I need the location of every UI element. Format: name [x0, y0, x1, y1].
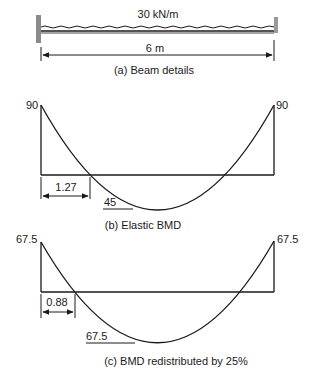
left-fixed-support: [36, 15, 41, 43]
caption-b: (b) Elastic BMD: [105, 219, 181, 231]
redistributed-bmd: 67.5 67.5 0.88 67.5 (c) BMD redistribute…: [16, 233, 298, 367]
bmd-b-contraflexure-label: 1.27: [55, 181, 76, 193]
bmd-c-contraflexure-label: 0.88: [46, 296, 67, 308]
elastic-bmd: 90 90 1.27 45 (b) Elastic BMD: [26, 99, 288, 231]
bmd-c-midspan-label: 67.5: [86, 330, 107, 342]
bmd-b-right-moment: 90: [276, 99, 288, 111]
beam-details: 30 kN/m 6 m (a) Beam details: [36, 8, 278, 76]
diagram-canvas: 30 kN/m 6 m (a) Beam details 90 90 1.27 …: [0, 0, 317, 381]
bmd-b-curve: [41, 105, 274, 210]
bmd-b-left-moment: 90: [26, 99, 38, 111]
bmd-b-midspan-label: 45: [104, 196, 116, 208]
distributed-load-line: [41, 26, 274, 28]
right-fixed-support: [274, 17, 278, 33]
load-label: 30 kN/m: [138, 8, 179, 20]
bmd-c-right-moment: 67.5: [277, 233, 298, 245]
caption-c: (c) BMD redistributed by 25%: [104, 355, 248, 367]
caption-a: (a) Beam details: [114, 64, 195, 76]
bmd-c-left-moment: 67.5: [16, 233, 37, 245]
span-label: 6 m: [146, 42, 164, 54]
